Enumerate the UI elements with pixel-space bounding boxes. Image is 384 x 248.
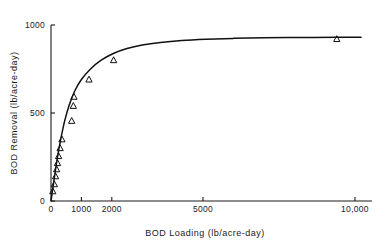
y-axis-title: BOD Removal (lb/acre-day)	[9, 51, 19, 174]
data-point-marker	[334, 36, 340, 42]
x-tick-label: 10,000	[341, 204, 369, 214]
data-point-markers	[50, 36, 340, 194]
y-axis: 05001000 BOD Removal (lb/acre-day)	[9, 20, 55, 206]
data-point-marker	[57, 145, 63, 151]
y-tick-label: 500	[30, 108, 45, 118]
x-tick-label: 2000	[102, 204, 122, 214]
y-axis-tick-labels: 05001000	[25, 20, 45, 206]
data-point-marker	[55, 153, 61, 159]
data-point-marker	[111, 57, 117, 63]
x-axis-title: BOD Loading (lb/acre-day)	[145, 228, 265, 238]
data-point-marker	[54, 166, 60, 172]
x-axis: 010002000500010,000 BOD Loading (lb/acre…	[48, 197, 372, 238]
data-point-marker	[54, 160, 60, 166]
x-axis-ticks	[81, 197, 355, 201]
data-point-marker	[86, 76, 92, 82]
data-point-marker	[51, 181, 57, 187]
x-axis-tick-labels: 010002000500010,000	[48, 204, 368, 214]
data-point-marker	[70, 103, 76, 109]
x-tick-label: 5000	[193, 204, 213, 214]
chart-canvas: 05001000 BOD Removal (lb/acre-day) 01000…	[0, 0, 384, 248]
data-point-marker	[52, 173, 58, 179]
data-point-marker	[59, 136, 65, 142]
fitted-curve	[51, 37, 361, 201]
x-tick-label: 1000	[71, 204, 91, 214]
y-tick-label: 1000	[25, 20, 45, 30]
data-point-marker	[69, 118, 75, 124]
x-tick-label: 0	[48, 204, 53, 214]
bod-removal-figure: 05001000 BOD Removal (lb/acre-day) 01000…	[0, 0, 384, 248]
y-tick-label: 0	[40, 196, 45, 206]
